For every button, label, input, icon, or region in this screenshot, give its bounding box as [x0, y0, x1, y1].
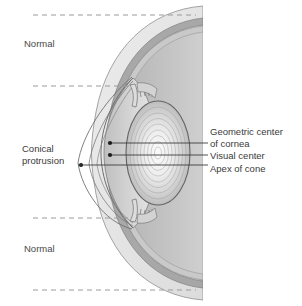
- label-normal-bottom: Normal: [24, 243, 55, 255]
- label-normal-top: Normal: [24, 38, 55, 50]
- label-conical-protrusion: Conical protrusion: [22, 143, 64, 166]
- figure-keratoconus-eye-cross-section: Normal Normal Conical protrusion Geometr…: [0, 0, 302, 306]
- label-geometric-center-of-cornea: Geometric center of cornea: [210, 126, 283, 149]
- label-visual-center: Visual center: [210, 150, 265, 162]
- label-apex-of-cone: Apex of cone: [210, 163, 265, 175]
- marker-visual-center: [108, 153, 112, 157]
- globe-group: [78, 6, 203, 300]
- marker-geometric-center-of-cornea: [108, 141, 112, 145]
- crystalline-lens: [126, 101, 190, 205]
